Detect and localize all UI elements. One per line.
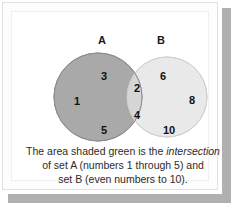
figure-caption: The area shaded green is the intersectio…: [24, 144, 222, 186]
venn-member-5: 5: [99, 124, 109, 136]
caption-line-3: set B (even numbers to 10).: [24, 172, 222, 186]
figure-frame: A B 3 1 5 2 4 6 8 10 The area shaded gre…: [2, 2, 218, 190]
venn-circles-svg: [16, 18, 228, 144]
venn-member-6: 6: [158, 70, 168, 82]
figure-shadow-bottom: [8, 194, 231, 203]
venn-diagram-figure: A B 3 1 5 2 4 6 8 10 The area shaded gre…: [0, 0, 231, 203]
venn-member-3: 3: [99, 70, 109, 82]
venn-member-1: 1: [72, 95, 82, 107]
venn-member-4: 4: [132, 109, 142, 121]
caption-line-1-text: The area shaded green is the: [26, 145, 166, 157]
caption-line-1: The area shaded green is the intersectio…: [24, 144, 222, 158]
venn-member-8: 8: [187, 94, 197, 106]
set-b-label: B: [157, 34, 165, 46]
venn-member-10: 10: [161, 124, 177, 136]
venn-area: A B 3 1 5 2 4 6 8 10: [16, 18, 228, 144]
figure-frame-inner: A B 3 1 5 2 4 6 8 10 The area shaded gre…: [11, 11, 209, 181]
caption-emphasis-intersection: intersection: [166, 145, 220, 157]
caption-line-2: of set A (numbers 1 through 5) and: [24, 158, 222, 172]
venn-member-2: 2: [132, 82, 142, 94]
set-a-label: A: [98, 34, 106, 46]
